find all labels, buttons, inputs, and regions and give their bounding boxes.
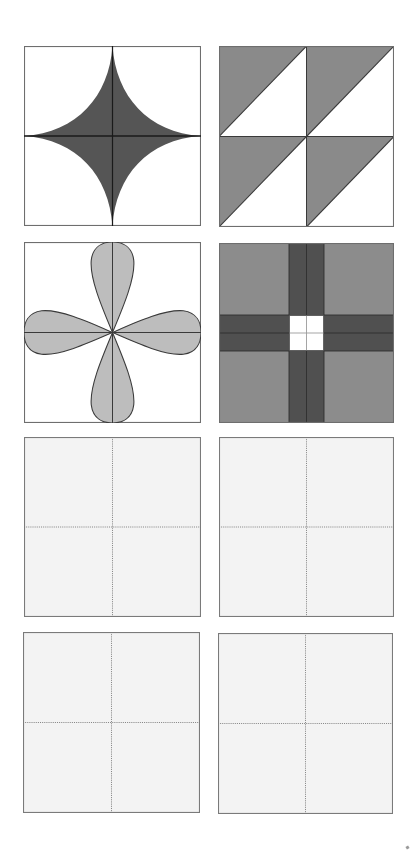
tile-blank-grid-6[interactable] [219,437,394,617]
tile-border [220,438,394,617]
tile-blank-grid-8[interactable] [218,633,393,814]
tile-astroid-star [24,46,201,226]
tile-blank-grid-5[interactable] [24,437,201,617]
blank-grid-figure [24,437,201,617]
tile-blank-grid-7[interactable] [23,632,200,813]
blank-grid-figure [218,633,393,814]
cross-figure [219,243,394,423]
blank-grid-figure [219,437,394,617]
tile-border [219,634,393,814]
tile-half-square-triangles [219,46,394,227]
four-petal-lobes-figure [24,242,201,423]
tile-border [25,438,201,617]
blank-grid-figure [23,632,200,813]
tile-cross-with-white-center [219,243,394,423]
astroid-star-figure [24,46,201,226]
tile-four-petal-lobes [24,242,201,423]
tile-border [24,633,200,813]
half-square-triangles-figure [219,46,394,227]
scan-speck [405,845,409,849]
